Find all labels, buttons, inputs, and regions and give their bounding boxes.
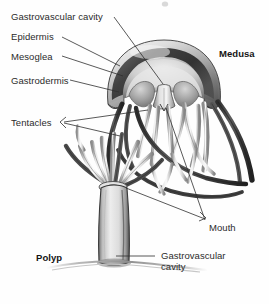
leader-mouth-polyp <box>126 188 205 219</box>
label-mesoglea: Mesoglea <box>11 51 53 62</box>
label-mouth: Mouth <box>209 222 236 233</box>
polyp-stalk <box>97 185 131 268</box>
label-epidermis: Epidermis <box>11 31 54 42</box>
leader-tentacles-upper <box>64 110 148 122</box>
label-gastrovascular-cavity-top: Gastrovascular cavity <box>11 11 103 22</box>
label-medusa: Medusa <box>219 48 255 59</box>
leader-epidermis <box>62 37 120 66</box>
leader-mesoglea <box>62 56 123 76</box>
leader-tentacles-bracket <box>60 117 66 128</box>
label-gastrovascular-cavity-bottom: Gastrovascular cavity <box>161 250 233 272</box>
label-gastrodermis: Gastrodermis <box>11 75 69 86</box>
label-tentacles: Tentacles <box>11 117 52 128</box>
scan-artifact <box>162 1 168 6</box>
cnidarian-diagram: Gastrovascular cavity Epidermis Mesoglea… <box>0 0 269 304</box>
label-polyp: Polyp <box>36 252 62 263</box>
